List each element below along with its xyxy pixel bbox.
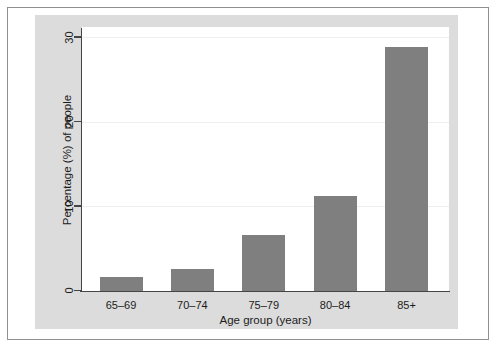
x-tick-label: 75–79 (232, 299, 296, 312)
bar (100, 277, 143, 291)
bar (242, 235, 285, 291)
chart-panel: Percentage (%) of people Age group (year… (35, 15, 458, 329)
y-tick-label: 30 (63, 24, 76, 50)
y-axis-line (81, 28, 83, 291)
figure: Percentage (%) of people Age group (year… (0, 0, 493, 346)
x-tick-label: 65–69 (89, 299, 153, 312)
bar (314, 196, 357, 291)
x-tick-label: 80–84 (303, 299, 367, 312)
bar (171, 269, 214, 290)
x-axis-title: Age group (years) (176, 313, 356, 327)
y-tick-label: 20 (63, 109, 76, 135)
y-tick-label: 0 (63, 278, 76, 304)
y-tick-label: 10 (63, 193, 76, 219)
x-tick-label: 85+ (375, 299, 439, 312)
gridline (82, 37, 449, 38)
plot-area (82, 27, 449, 291)
x-tick-label: 70–74 (160, 299, 224, 312)
x-axis-line (80, 291, 450, 293)
bar (385, 47, 428, 290)
